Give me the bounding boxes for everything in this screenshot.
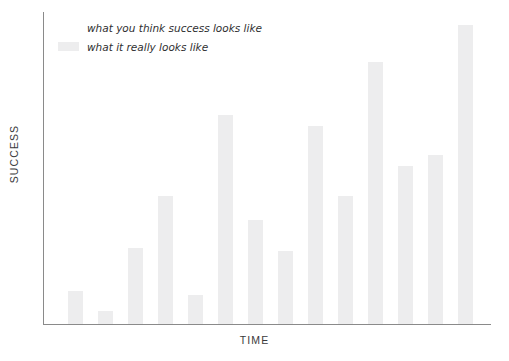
bar-8 xyxy=(278,251,293,324)
legend-label: what it really looks like xyxy=(87,41,208,53)
legend-entry-0: what you think success looks like xyxy=(58,18,318,37)
bar-12 xyxy=(398,166,413,324)
bar-13 xyxy=(428,155,443,324)
y-axis-title: SUCCESS xyxy=(8,109,20,199)
bar-3 xyxy=(128,248,143,324)
x-axis-title: TIME xyxy=(0,334,509,346)
bar-2 xyxy=(98,311,113,324)
bar-9 xyxy=(308,126,323,324)
bar-14 xyxy=(458,25,473,324)
bar-4 xyxy=(158,196,173,324)
bar-11 xyxy=(368,62,383,324)
chart-legend: what you think success looks likewhat it… xyxy=(58,18,318,56)
bar-1 xyxy=(68,291,83,324)
bar-6 xyxy=(218,115,233,324)
legend-swatch-icon xyxy=(58,23,79,32)
legend-label: what you think success looks like xyxy=(87,22,262,34)
legend-entry-1: what it really looks like xyxy=(58,37,318,56)
bar-10 xyxy=(338,196,353,324)
legend-swatch-icon xyxy=(58,42,79,51)
bar-5 xyxy=(188,295,203,324)
bar-7 xyxy=(248,220,263,324)
bar-chart-figure: what you think success looks likewhat it… xyxy=(0,0,509,361)
